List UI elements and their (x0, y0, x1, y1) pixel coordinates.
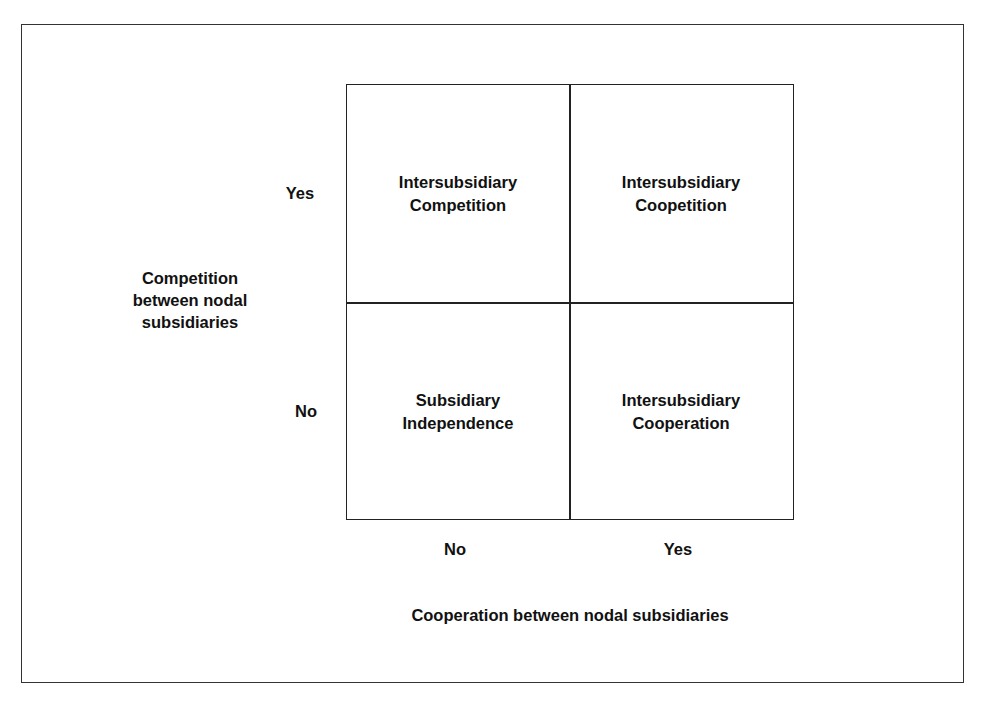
x-axis-title: Cooperation between nodal subsidiaries (340, 604, 800, 626)
cell-label-line: Independence (403, 412, 514, 435)
cell-label-line: Intersubsidiary (622, 389, 740, 412)
cell-label-line: Subsidiary (403, 389, 514, 412)
y-axis-title-line-2: between nodal (120, 289, 260, 311)
cell-intersubsidiary-cooperation: Intersubsidiary Cooperation (570, 303, 792, 520)
y-axis-title: Competition between nodal subsidiaries (120, 267, 260, 333)
cell-label-line: Coopetition (622, 194, 740, 217)
cell-subsidiary-independence: Subsidiary Independence (347, 303, 569, 520)
cell-intersubsidiary-coopetition: Intersubsidiary Coopetition (570, 85, 792, 302)
cell-intersubsidiary-competition: Intersubsidiary Competition (347, 85, 569, 302)
cell-label-line: Cooperation (622, 412, 740, 435)
y-axis-title-line-3: subsidiaries (120, 311, 260, 333)
cell-label-line: Intersubsidiary (399, 171, 517, 194)
y-tick-no: No (286, 400, 326, 422)
cell-label-line: Intersubsidiary (622, 171, 740, 194)
y-axis-title-line-1: Competition (120, 267, 260, 289)
cell-label-line: Competition (399, 194, 517, 217)
x-tick-no: No (425, 538, 485, 560)
matrix-grid: Intersubsidiary Competition Intersubsidi… (346, 84, 794, 520)
x-tick-yes: Yes (648, 538, 708, 560)
y-tick-yes: Yes (280, 182, 320, 204)
